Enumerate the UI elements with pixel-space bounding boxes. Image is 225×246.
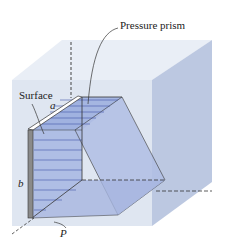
surface-plate: [28, 130, 33, 218]
height-label-b: b: [18, 178, 24, 189]
surface-label: Surface: [19, 90, 53, 101]
width-label-a: a: [50, 100, 56, 111]
pressure-label-p: P: [60, 228, 67, 239]
pressure-prism-label: Pressure prism: [120, 20, 185, 31]
diagram-canvas: [0, 0, 225, 246]
